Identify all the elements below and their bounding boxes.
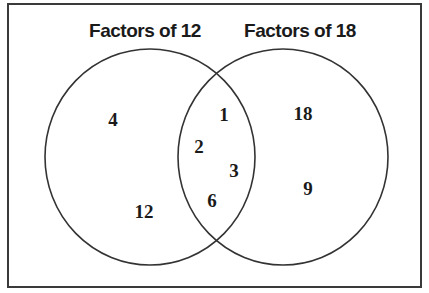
intersection-value: 1 <box>219 104 229 125</box>
right-set-title: Factors of 18 <box>244 20 356 41</box>
left-circle <box>45 49 255 265</box>
venn-diagram: Factors of 12 Factors of 18 4 12 1 2 3 6… <box>0 0 429 293</box>
intersection-value: 6 <box>207 190 217 211</box>
intersection-value: 2 <box>194 136 204 157</box>
left-set-title: Factors of 12 <box>89 20 201 41</box>
left-only-value: 4 <box>108 109 118 130</box>
intersection-value: 3 <box>229 160 239 181</box>
left-only-value: 12 <box>135 201 154 222</box>
right-circle <box>178 49 388 265</box>
right-only-value: 9 <box>303 178 313 199</box>
right-only-value: 18 <box>294 103 313 124</box>
